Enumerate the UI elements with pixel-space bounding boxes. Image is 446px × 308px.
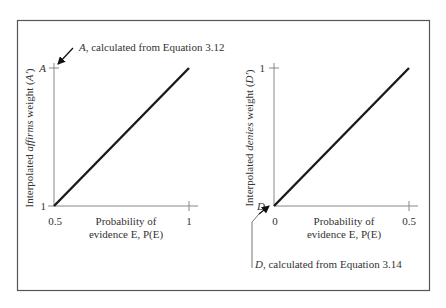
- x-tick-label-0-right: 0: [272, 215, 278, 227]
- y-tick-label-1-right: 1: [260, 62, 266, 74]
- x-tick-label-0.5-right: 0.5: [402, 215, 416, 227]
- y-axis-label-left: Interpolated affirms weight (A'): [23, 68, 36, 207]
- annotation-arrow-A: [58, 48, 73, 64]
- annotation-A: A, calculated from Equation 3.12: [78, 41, 224, 53]
- annotation-D: D, calculated from Equation 3.14: [254, 258, 402, 270]
- y-tick-label-A: A: [38, 62, 46, 74]
- figure: A 1 0.5 1 Probability of evidence E, P(E…: [0, 0, 446, 308]
- y-axis-label-right: Interpolated denies weight (D'): [243, 69, 256, 206]
- x-axis-label-right-line2: evidence E, P(E): [307, 228, 382, 241]
- x-tick-label-1-left: 1: [186, 215, 192, 227]
- chart-affirms: A 1 0.5 1 Probability of evidence E, P(E…: [23, 41, 224, 241]
- y-tick-label-1-left: 1: [41, 200, 47, 212]
- x-axis-label-left-line1: Probability of: [96, 215, 157, 227]
- affirms-line: [54, 68, 189, 206]
- x-axis-label-left-line2: evidence E, P(E): [89, 228, 164, 241]
- figure-frame: [18, 21, 430, 291]
- x-axis-label-right-line1: Probability of: [314, 215, 375, 227]
- denies-line: [274, 68, 409, 206]
- chart-denies: 1 D 0 0.5 Probability of evidence E, P(E…: [243, 62, 418, 270]
- x-tick-label-0.5-left: 0.5: [48, 215, 62, 227]
